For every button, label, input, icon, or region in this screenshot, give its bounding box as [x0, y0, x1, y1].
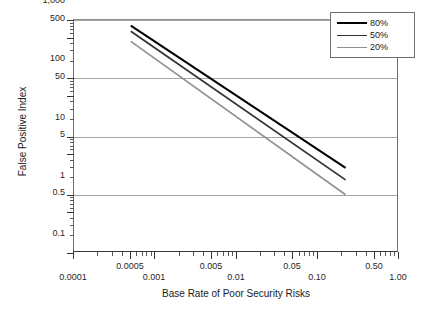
y-axis-tick	[67, 38, 74, 39]
y-axis-tick	[67, 195, 74, 196]
y-axis-tick	[67, 78, 74, 79]
x-axis-minor-tick	[146, 252, 147, 256]
y-axis-tick-label: 100	[50, 54, 65, 63]
x-axis-minor-tick	[366, 252, 367, 256]
x-axis-minor-tick	[97, 252, 98, 256]
x-axis-minor-tick	[136, 252, 137, 256]
x-axis-minor-tick	[232, 252, 233, 256]
x-axis-minor-tick	[179, 252, 180, 256]
y-axis-tick	[67, 154, 74, 155]
x-axis-minor-tick	[193, 252, 194, 256]
y-axis-tick-label: 0.5	[52, 188, 65, 197]
legend-item: 20%	[337, 41, 408, 53]
x-axis-tick-label: 0.0005	[116, 262, 144, 271]
x-axis-tick	[292, 252, 293, 259]
x-axis-minor-tick	[142, 252, 143, 256]
x-axis-tick-label: 0.01	[227, 273, 245, 282]
x-axis-tick	[374, 252, 375, 259]
x-axis-minor-tick	[309, 252, 310, 256]
legend-label: 50%	[370, 31, 388, 40]
series-line-20pct	[131, 41, 346, 194]
x-axis-tick	[130, 252, 131, 259]
x-axis-title: Base Rate of Poor Security Risks	[73, 288, 399, 299]
chart-figure: False Positive Index 1,0005001005010510.…	[0, 0, 424, 309]
y-axis-tick	[67, 96, 74, 97]
x-axis-minor-tick	[380, 252, 381, 256]
series-line-80pct	[131, 26, 346, 168]
y-axis-labels: 1,0005001005010510.50.1	[20, 0, 65, 233]
legend-swatch	[337, 47, 367, 48]
y-axis-tick	[67, 212, 74, 213]
x-axis-tick-label: 0.05	[283, 262, 301, 271]
x-axis-minor-tick	[223, 252, 224, 256]
legend-label: 80%	[370, 19, 388, 28]
x-axis-labels-lower: 0.00010.0010.010.101.00	[73, 273, 399, 285]
x-axis-tick	[73, 252, 74, 259]
x-axis-minor-tick	[385, 252, 386, 256]
y-axis-tick-label: 500	[50, 14, 65, 23]
x-axis-minor-tick	[122, 252, 123, 256]
y-axis-tick-label: 50	[55, 72, 65, 81]
legend: 80%50%20%	[330, 12, 415, 58]
x-axis-minor-tick	[217, 252, 218, 256]
x-axis-tick-label: 1.00	[389, 273, 407, 282]
x-axis-tick	[211, 252, 212, 259]
x-axis-tick-label: 0.001	[143, 273, 166, 282]
y-axis-tick-label: 10	[55, 113, 65, 122]
x-axis-tick-label: 0.50	[365, 262, 383, 271]
y-axis-tick-label: 1	[60, 171, 65, 180]
x-axis-minor-tick	[151, 252, 152, 256]
x-axis-minor-tick	[394, 252, 395, 256]
series-line-50pct	[131, 31, 346, 180]
y-axis-tick-label: 0.1	[52, 229, 65, 238]
y-axis-tick	[67, 137, 74, 138]
x-axis-minor-tick	[341, 252, 342, 256]
legend-item: 80%	[337, 17, 408, 29]
x-axis-minor-tick	[284, 252, 285, 256]
x-axis-tick	[236, 252, 237, 259]
legend-swatch	[337, 22, 367, 24]
x-axis-tick-label: 0.10	[308, 273, 326, 282]
x-axis-tick-label: 0.005	[200, 262, 223, 271]
legend-label: 20%	[370, 43, 388, 52]
x-axis-minor-tick	[274, 252, 275, 256]
y-axis-tick-label: 5	[60, 130, 65, 139]
x-axis-minor-tick	[112, 252, 113, 256]
x-axis-tick	[154, 252, 155, 259]
x-axis-tick-label: 0.0001	[59, 273, 87, 282]
x-axis-minor-tick	[299, 252, 300, 256]
y-axis-tick-label: 1,000	[42, 0, 65, 5]
x-axis-minor-tick	[304, 252, 305, 256]
x-axis-minor-tick	[313, 252, 314, 256]
x-axis-minor-tick	[203, 252, 204, 256]
x-axis-minor-tick	[260, 252, 261, 256]
x-axis-tick	[398, 252, 399, 259]
x-axis-minor-tick	[228, 252, 229, 256]
legend-item: 50%	[337, 29, 408, 41]
x-axis-minor-tick	[356, 252, 357, 256]
x-axis-minor-tick	[390, 252, 391, 256]
x-axis-tick	[317, 252, 318, 259]
legend-swatch	[337, 35, 367, 36]
y-axis-tick	[67, 20, 74, 21]
